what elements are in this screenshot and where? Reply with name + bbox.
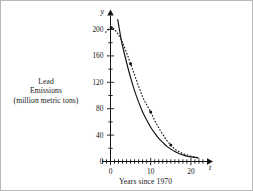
y-tick-label: 120	[81, 78, 104, 87]
x-tick-label: 0	[101, 167, 121, 176]
figure-container: Lead Emissions (million metric tons) Yea…	[0, 0, 253, 191]
data-markers-layer	[110, 26, 172, 146]
x-axis-name-label: t	[209, 163, 211, 172]
y-tick-label: 200	[81, 25, 104, 34]
y-axis-arrowhead	[107, 10, 113, 16]
y-tick-label: 80	[81, 104, 104, 113]
data-point-marker	[129, 62, 132, 65]
y-tick-label: 40	[81, 131, 104, 140]
y-axis-name-label: y	[101, 7, 105, 16]
data-point-marker	[110, 26, 113, 29]
axes-layer	[102, 10, 213, 166]
curves-layer	[106, 20, 199, 159]
y-tick-label: 0	[81, 157, 104, 166]
chart-plot	[1, 1, 253, 191]
x-tick-label: 20	[181, 167, 201, 176]
data-point-marker	[149, 111, 152, 114]
series-data-model-curve	[106, 28, 199, 158]
series-exponential-fit-curve	[118, 20, 199, 159]
data-point-marker	[169, 144, 172, 147]
x-tick-label: 10	[141, 167, 161, 176]
y-tick-label: 160	[81, 51, 104, 60]
